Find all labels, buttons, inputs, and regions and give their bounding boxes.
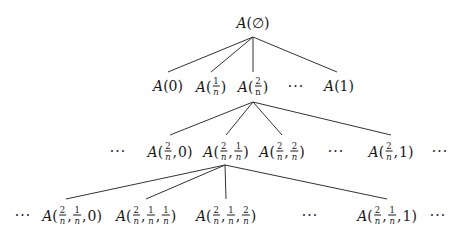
close-paren: ) — [178, 79, 183, 93]
tree-node-level-2: A(2n,1n) — [203, 142, 248, 161]
fraction-numerator: 2 — [276, 142, 283, 152]
ellipsis: ··· — [15, 207, 31, 223]
tree-edge — [66, 165, 225, 199]
fraction: 2n — [254, 77, 261, 96]
comma: , — [284, 144, 288, 158]
comma: , — [228, 144, 232, 158]
tree-node-level-1: A(0) — [153, 79, 183, 93]
close-paren: ) — [251, 208, 256, 222]
fraction-denominator: n — [386, 151, 391, 161]
function-symbol: A — [153, 79, 163, 93]
fraction: 2n — [132, 206, 139, 225]
ellipsis: ··· — [430, 207, 446, 223]
tree-edge — [225, 165, 226, 199]
fraction-denominator: n — [163, 215, 168, 225]
ellipsis: ··· — [288, 78, 304, 94]
open-paren: ( — [248, 79, 253, 93]
function-symbol: A — [196, 79, 206, 93]
node-arg: 1 — [340, 79, 349, 93]
close-paren: ) — [411, 208, 416, 222]
close-paren: ) — [263, 79, 268, 93]
function-symbol: A — [42, 208, 52, 222]
tree-edge — [253, 102, 391, 135]
fraction-numerator: 1 — [227, 206, 234, 216]
fraction-numerator: 1 — [212, 77, 219, 87]
node-arg: 1 — [399, 144, 408, 158]
tree-edge — [211, 37, 253, 72]
fraction-denominator: n — [292, 151, 297, 161]
fraction-denominator: n — [277, 151, 282, 161]
tree-edges — [0, 0, 451, 237]
node-arg: 0 — [169, 79, 178, 93]
tree-edge — [146, 165, 225, 199]
comma: , — [173, 144, 177, 158]
fraction-numerator: 1 — [235, 142, 242, 152]
comma: , — [82, 208, 86, 222]
fraction: 1n — [74, 206, 81, 225]
fraction-denominator: n — [148, 215, 153, 225]
fraction-denominator: n — [165, 151, 170, 161]
fraction: 1n — [162, 206, 169, 225]
tree-diagram: A(∅)A(0)A(1n)A(2n)A(1)···A(2n,0)A(2n,1n)… — [0, 0, 451, 237]
function-symbol: A — [324, 79, 334, 93]
open-paren: ( — [52, 208, 57, 222]
function-symbol: A — [236, 16, 246, 30]
comma: , — [397, 208, 401, 222]
node-arg: 0 — [178, 144, 187, 158]
fraction-numerator: 2 — [291, 142, 298, 152]
close-paren: ) — [264, 16, 269, 30]
tree-node-level-1: A(2n) — [238, 77, 268, 96]
open-paren: ( — [367, 208, 372, 222]
tree-node-level-3: A(2n,1n,2n) — [196, 206, 256, 225]
function-symbol: A — [357, 208, 367, 222]
tree-edge — [253, 102, 282, 135]
tree-edge — [168, 37, 253, 72]
open-paren: ( — [206, 208, 211, 222]
open-paren: ( — [158, 144, 163, 158]
fraction-numerator: 2 — [220, 142, 227, 152]
fraction: 2n — [374, 206, 381, 225]
comma: , — [221, 208, 225, 222]
comma: , — [382, 208, 386, 222]
ellipsis: ··· — [302, 207, 318, 223]
close-paren: ) — [243, 144, 248, 158]
node-arg: 1 — [402, 208, 411, 222]
fraction: 1n — [235, 142, 242, 161]
close-paren: ) — [221, 79, 226, 93]
fraction: 2n — [164, 142, 171, 161]
fraction-numerator: 2 — [254, 77, 261, 87]
function-symbol: A — [238, 79, 248, 93]
fraction: 2n — [276, 142, 283, 161]
fraction-numerator: 2 — [385, 142, 392, 152]
fraction-numerator: 1 — [147, 206, 154, 216]
fraction-denominator: n — [228, 215, 233, 225]
comma: , — [141, 208, 145, 222]
tree-node-level-3: A(2n,1n,1) — [357, 206, 417, 225]
node-arg: ∅ — [252, 16, 264, 30]
fraction: 2n — [385, 142, 392, 161]
tree-node-level-2: A(2n,1) — [369, 142, 414, 161]
close-paren: ) — [171, 208, 176, 222]
fraction: 1n — [147, 206, 154, 225]
comma: , — [236, 208, 240, 222]
fraction-numerator: 2 — [59, 206, 66, 216]
fraction-denominator: n — [213, 215, 218, 225]
fraction-numerator: 1 — [162, 206, 169, 216]
fraction-numerator: 1 — [74, 206, 81, 216]
fraction-denominator: n — [255, 86, 260, 96]
fraction: 2n — [59, 206, 66, 225]
fraction-denominator: n — [236, 151, 241, 161]
fraction-denominator: n — [60, 215, 65, 225]
fraction-numerator: 2 — [164, 142, 171, 152]
fraction-denominator: n — [133, 215, 138, 225]
comma: , — [394, 144, 398, 158]
tree-node-level-3: A(2n,1n,0) — [42, 206, 102, 225]
fraction-denominator: n — [375, 215, 380, 225]
root-node: A(∅) — [236, 16, 269, 30]
fraction-denominator: n — [75, 215, 80, 225]
ellipsis: ··· — [328, 143, 344, 159]
fraction: 1n — [212, 77, 219, 96]
open-paren: ( — [379, 144, 384, 158]
function-symbol: A — [259, 144, 269, 158]
function-symbol: A — [116, 208, 126, 222]
